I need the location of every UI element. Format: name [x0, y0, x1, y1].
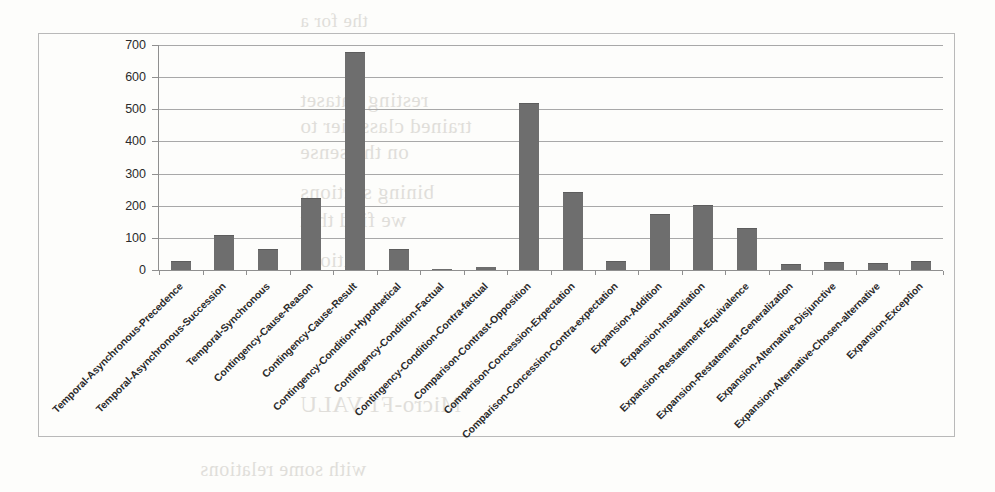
x-tick-mark: [943, 271, 944, 275]
x-tick-mark: [290, 271, 291, 275]
y-tick-mark: [152, 77, 159, 78]
bar[interactable]: [606, 261, 626, 270]
bar[interactable]: [432, 269, 452, 271]
x-tick-mark: [507, 271, 508, 275]
gridline: [159, 238, 943, 239]
y-axis-tick-labels: 0100200300400500600700: [96, 45, 146, 271]
x-tick-mark: [595, 271, 596, 275]
y-tick-label: 500: [102, 102, 146, 116]
x-tick-mark: [725, 271, 726, 275]
y-tick-mark: [152, 141, 159, 142]
x-tick-mark: [333, 271, 334, 275]
y-tick-mark: [152, 174, 159, 175]
y-tick-mark: [152, 270, 159, 271]
y-tick-label: 300: [102, 167, 146, 181]
y-tick-label: 100: [102, 231, 146, 245]
bar[interactable]: [171, 261, 191, 270]
x-tick-mark: [464, 271, 465, 275]
gridline: [159, 77, 943, 78]
x-tick-mark: [812, 271, 813, 275]
bar[interactable]: [389, 249, 409, 270]
x-axis-tick-marks: [159, 271, 943, 276]
y-tick-label: 400: [102, 134, 146, 148]
x-tick-mark: [638, 271, 639, 275]
bar[interactable]: [650, 214, 670, 270]
bar[interactable]: [911, 261, 931, 270]
bar[interactable]: [301, 198, 321, 270]
x-tick-mark: [769, 271, 770, 275]
x-tick-mark: [246, 271, 247, 275]
ghost-text: with some relations: [200, 458, 366, 481]
bar[interactable]: [258, 249, 278, 270]
bar[interactable]: [519, 103, 539, 271]
plot-area: [159, 45, 943, 270]
bar[interactable]: [781, 264, 801, 270]
ghost-text: the for a: [300, 10, 368, 32]
x-tick-mark: [856, 271, 857, 275]
bar[interactable]: [476, 267, 496, 270]
gridline: [159, 141, 943, 142]
bar[interactable]: [737, 228, 757, 270]
y-tick-label: 700: [102, 38, 146, 52]
y-tick-label: 0: [102, 263, 146, 277]
gridline: [159, 109, 943, 110]
bar[interactable]: [345, 52, 365, 270]
y-tick-mark: [152, 206, 159, 207]
gridline: [159, 45, 943, 46]
gridline: [159, 174, 943, 175]
x-tick-mark: [377, 271, 378, 275]
y-tick-label: 200: [102, 199, 146, 213]
x-tick-mark: [159, 271, 160, 275]
y-tick-mark: [152, 238, 159, 239]
gridline: [159, 206, 943, 207]
bar[interactable]: [868, 263, 888, 270]
x-tick-mark: [551, 271, 552, 275]
x-tick-mark: [420, 271, 421, 275]
bar[interactable]: [824, 262, 844, 270]
x-tick-mark: [682, 271, 683, 275]
y-tick-mark: [152, 109, 159, 110]
bar[interactable]: [214, 235, 234, 270]
bar[interactable]: [693, 205, 713, 270]
y-tick-label: 600: [102, 70, 146, 84]
bar[interactable]: [563, 192, 583, 270]
x-tick-mark: [899, 271, 900, 275]
y-tick-mark: [152, 45, 159, 46]
x-tick-mark: [203, 271, 204, 275]
